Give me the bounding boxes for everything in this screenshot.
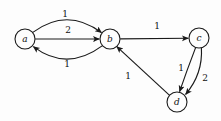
edge-label-b-a-1: 1 <box>64 59 70 69</box>
edge-label-d-b-1: 1 <box>125 71 131 81</box>
node-b[interactable]: b <box>100 29 120 49</box>
node-a[interactable]: a <box>15 29 35 49</box>
edge-group <box>33 20 202 96</box>
node-a-label: a <box>22 34 27 44</box>
edge-b-to-c-straight <box>120 38 188 39</box>
node-d-label: d <box>174 97 180 107</box>
node-d[interactable]: d <box>167 92 187 112</box>
edge-label-a-b-2: 2 <box>65 25 71 35</box>
edge-label-c-d-2: 2 <box>202 73 208 83</box>
edge-label-c-d-1: 1 <box>178 63 184 73</box>
diagram-canvas: a b c d 1 2 1 1 1 2 1 <box>0 0 221 121</box>
edge-label-a-b-1: 1 <box>62 9 68 19</box>
edge-c-to-d-curve-right <box>186 48 202 95</box>
node-c-label: c <box>196 33 201 43</box>
graph-svg: a b c d 1 2 1 1 1 2 1 <box>0 0 221 121</box>
node-c[interactable]: c <box>189 28 209 48</box>
edge-label-b-c-1: 1 <box>154 21 160 31</box>
edge-b-to-a-curve-down <box>33 46 102 59</box>
node-b-label: b <box>107 34 113 44</box>
